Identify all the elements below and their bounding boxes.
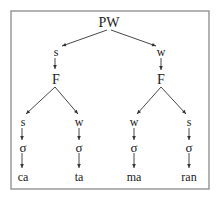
node-f2: F [157, 72, 165, 87]
node-ma: ma [127, 170, 142, 184]
node-w1: w [157, 45, 166, 59]
node-sg1: σ [19, 140, 26, 155]
edge-f1-s2 [26, 87, 55, 114]
node-sg3: σ [130, 140, 137, 155]
node-sg4: σ [185, 140, 192, 155]
arrowhead-icon [187, 164, 191, 168]
node-ta: ta [75, 170, 84, 184]
tree-nodes: PWswFFswwsσσσσcatamaran [18, 15, 197, 185]
node-w3: w [130, 115, 139, 129]
node-s1: s [54, 45, 59, 59]
node-s2: s [21, 115, 26, 129]
edge-pw-w1 [111, 30, 156, 46]
arrowhead-icon [77, 164, 81, 168]
arrowhead-icon [62, 43, 66, 46]
arrowhead-icon [53, 65, 57, 69]
node-pw: PW [99, 15, 121, 30]
node-s3: s [187, 115, 192, 129]
arrowhead-icon [20, 164, 24, 168]
arrowhead-icon [159, 66, 163, 70]
edge-f2-s3 [161, 87, 186, 114]
node-ca: ca [18, 170, 29, 184]
prosodic-tree-diagram: PWswFFswwsσσσσcatamaran [0, 0, 219, 197]
node-ran: ran [181, 170, 196, 184]
edge-f2-w3 [137, 87, 161, 114]
edge-pw-s1 [62, 30, 107, 46]
node-w2: w [75, 115, 84, 129]
arrowhead-icon [152, 43, 156, 46]
node-f1: F [52, 72, 60, 87]
node-sg2: σ [75, 140, 82, 155]
edge-f1-w2 [55, 87, 78, 114]
arrowhead-icon [132, 164, 136, 168]
